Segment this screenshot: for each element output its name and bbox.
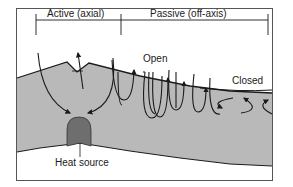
closed-label: Closed [232, 76, 263, 86]
heat-source-label: Heat source [55, 158, 109, 168]
heat-source-dome [67, 117, 91, 146]
passive-off-axis-label: Passive (off-axis) [150, 9, 227, 19]
hydrothermal-diagram: Active (axial) Passive (off-axis) Open C… [0, 0, 293, 187]
active-axial-label: Active (axial) [47, 9, 104, 19]
open-label: Open [143, 54, 167, 64]
diagram-canvas [0, 0, 293, 187]
